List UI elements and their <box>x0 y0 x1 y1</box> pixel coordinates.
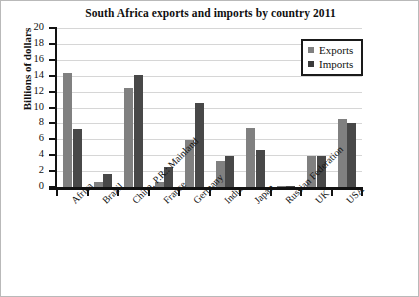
y-tick-label: 18 <box>18 37 44 48</box>
chart-figure: South Africa exports and imports by coun… <box>0 0 419 297</box>
y-tick-mark <box>49 138 56 140</box>
y-tick-mark <box>49 122 56 124</box>
exports-swatch-icon <box>308 47 314 53</box>
y-tick-label: 4 <box>18 148 44 159</box>
legend-label-imports: Imports <box>319 58 353 70</box>
bar-imports <box>73 129 82 187</box>
y-tick-mark <box>49 107 56 109</box>
bar-imports <box>103 174 112 188</box>
imports-swatch-icon <box>308 61 314 67</box>
y-tick-label: 16 <box>18 53 44 64</box>
y-tick-mark <box>49 186 56 188</box>
bar-imports <box>225 156 234 187</box>
y-tick-mark <box>49 170 56 172</box>
x-tick-mark <box>56 190 58 196</box>
bar-imports <box>134 75 143 187</box>
y-tick-label: 6 <box>18 132 44 143</box>
y-tick-mark <box>49 91 56 93</box>
y-tick-mark <box>49 59 56 61</box>
gridline <box>57 139 362 140</box>
chart-legend: Exports Imports <box>301 39 363 76</box>
y-tick-label: 12 <box>18 85 44 96</box>
y-tick-mark <box>49 27 56 29</box>
chart-title: South Africa exports and imports by coun… <box>1 7 419 19</box>
bar-exports <box>63 73 72 187</box>
y-tick-mark <box>49 75 56 77</box>
x-tick-label: UK <box>313 188 331 206</box>
bar-imports <box>347 123 356 187</box>
y-tick-label: 10 <box>18 101 44 112</box>
y-tick-label: 20 <box>18 21 44 32</box>
gridline <box>57 28 362 29</box>
gridline <box>57 123 362 124</box>
y-tick-label: 8 <box>18 116 44 127</box>
legend-item-imports: Imports <box>308 57 353 71</box>
y-tick-label: 14 <box>18 69 44 80</box>
legend-item-exports: Exports <box>308 43 353 57</box>
y-tick-label: 0 <box>18 180 44 191</box>
gridline <box>57 92 362 93</box>
y-tick-label: 2 <box>18 164 44 175</box>
bar-exports <box>124 88 133 187</box>
bar-exports <box>246 128 255 187</box>
gridline <box>57 108 362 109</box>
y-tick-mark <box>49 43 56 45</box>
bar-imports <box>256 150 265 187</box>
y-tick-mark <box>49 154 56 156</box>
legend-label-exports: Exports <box>319 44 353 56</box>
